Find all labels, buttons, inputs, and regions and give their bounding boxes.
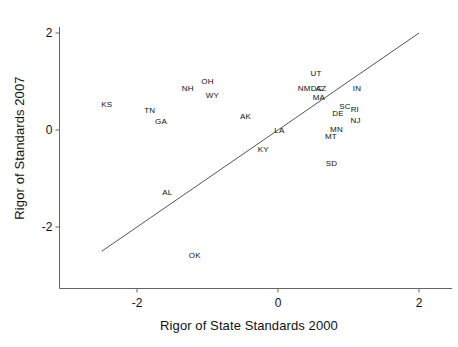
data-point-al: AL — [162, 189, 172, 197]
data-point-in: IN — [353, 85, 361, 93]
data-point-ks: KS — [101, 101, 112, 109]
data-point-oh: OH — [201, 78, 213, 86]
y-tick-label: -2 — [42, 220, 53, 234]
x-tick-label: 0 — [275, 296, 282, 310]
data-point-nj: NJ — [350, 117, 360, 125]
identity-line — [102, 33, 419, 251]
data-point-sd: SD — [326, 160, 338, 168]
data-point-nh: NH — [182, 85, 194, 93]
data-point-ma: MA — [313, 94, 325, 102]
plot-area: -202-202 KSTNGANHOHWYAKALOKKYLAUTNMDCAZM… — [0, 0, 458, 347]
axis-lines — [60, 27, 453, 289]
data-point-ri: RI — [351, 106, 359, 114]
data-point-ut: UT — [311, 70, 322, 78]
y-axis-title: Rigor of Standards 2007 — [12, 18, 36, 278]
data-point-ky: KY — [258, 146, 269, 154]
data-point-la: LA — [274, 127, 284, 135]
x-tick-label: -2 — [132, 296, 143, 310]
data-point-ok: OK — [189, 252, 201, 260]
data-point-ga: GA — [155, 118, 167, 126]
data-point-ak: AK — [240, 113, 251, 121]
y-tick-label: 0 — [46, 123, 53, 137]
x-axis-title: Rigor of State Standards 2000 — [59, 318, 439, 333]
data-point-nm: NM — [298, 85, 311, 93]
plot-svg — [0, 0, 458, 347]
data-point-wy: WY — [206, 92, 219, 100]
data-point-de: DE — [332, 110, 344, 118]
data-point-mt: MT — [325, 133, 337, 141]
x-tick-label: 2 — [416, 296, 423, 310]
scatter-chart: -202-202 KSTNGANHOHWYAKALOKKYLAUTNMDCAZM… — [0, 0, 458, 347]
y-tick-label: 2 — [46, 26, 53, 40]
data-point-az: AZ — [316, 85, 327, 93]
tick-marks — [56, 33, 420, 293]
data-point-tn: TN — [144, 107, 155, 115]
